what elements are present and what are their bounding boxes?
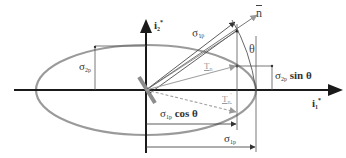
traction-label: Tn — [204, 62, 213, 72]
traction-prime-label: Tn' — [222, 92, 232, 105]
normal-label: n — [256, 7, 262, 19]
sigma1p-dimension-label: σ1p — [224, 133, 236, 145]
axis-i2-label: i2* — [154, 19, 163, 32]
axis-i1-label: i1* — [312, 97, 321, 110]
angle-theta-label: θ — [249, 43, 255, 55]
axis-i2-arrow-icon — [140, 19, 152, 33]
sigma1p-cos-label: σ1p cos θ — [160, 108, 198, 120]
traction-vector — [146, 66, 236, 90]
sigma1p-diagonal-label: σ1p — [191, 26, 204, 40]
axis-i1-arrow-icon — [328, 84, 343, 96]
sigma2p-sin-label: σ2p sin θ — [275, 70, 312, 82]
sigma2p-label: σ2p — [79, 61, 91, 73]
